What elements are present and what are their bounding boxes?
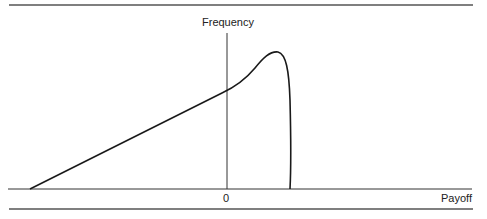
x-origin-tick-label: 0 <box>223 192 229 204</box>
x-axis-label: Payoff <box>441 192 472 204</box>
y-axis-label: Frequency <box>202 16 254 28</box>
payoff-frequency-chart <box>0 0 487 219</box>
frequency-curve <box>30 52 291 189</box>
